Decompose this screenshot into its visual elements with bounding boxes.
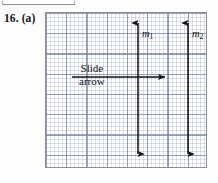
mass-label-m2: m2 — [192, 28, 203, 41]
mass-label-m1: m1 — [142, 28, 153, 41]
figure-root: 16. (a) m1 m2 Slide arrow — [0, 0, 218, 183]
mass-label-m1-subscript: 1 — [150, 32, 154, 41]
graph-paper-frame — [45, 12, 207, 168]
slide-arrow-caption-line2: arrow — [79, 75, 105, 88]
mass-label-m1-base: m — [142, 28, 150, 39]
mass-label-m2-base: m — [192, 28, 200, 39]
problem-number-label: 16. (a) — [4, 12, 35, 24]
slide-arrow-caption: Slide arrow — [79, 62, 105, 87]
clipped-top-rule — [2, 1, 75, 5]
mass-label-m2-subscript: 2 — [200, 32, 204, 41]
slide-arrow-caption-line1: Slide — [79, 62, 105, 75]
